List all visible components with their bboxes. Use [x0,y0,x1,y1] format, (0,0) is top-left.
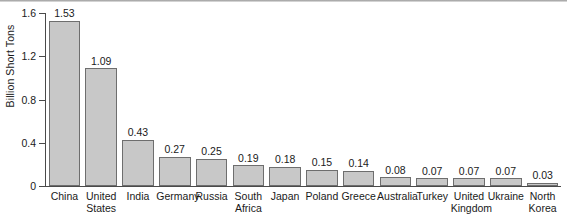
category-label-line: Korea [524,202,561,214]
category-label-line: United [83,190,120,202]
x-axis-category-label: Greece [340,190,377,202]
bar-column[interactable]: 0.08 [380,13,412,186]
bar-column[interactable]: 0.25 [196,13,228,186]
bar-value-label: 0.14 [348,158,368,169]
bar[interactable] [306,170,338,186]
y-axis-tick-label: 1.2 [0,51,36,62]
bar-chart-figure: Billion Short Tons 00.40.81.21.6 1.531.0… [0,0,567,224]
x-axis-category-label: UnitedKingdom [451,190,488,214]
y-axis-tick-mark [39,143,46,144]
y-axis-tick-mark [39,100,46,101]
x-axis-category-label: UnitedStates [83,190,120,214]
bar-value-label: 0.07 [422,166,442,177]
category-label-line: United [451,190,488,202]
bar-value-label: 0.08 [385,165,405,176]
category-label-line: North [524,190,561,202]
bar[interactable] [269,167,301,186]
bar[interactable] [453,178,485,186]
bar[interactable] [490,178,522,186]
bar-column[interactable]: 1.09 [85,13,117,186]
bar-value-label: 0.43 [128,127,148,138]
category-label-line: States [83,202,120,214]
bar-column[interactable]: 0.07 [490,13,522,186]
category-label-line: Turkey [414,190,451,202]
bar-value-label: 0.25 [201,146,221,157]
bar[interactable] [416,178,448,186]
category-label-line: Russia [193,190,230,202]
bar-column[interactable]: 0.19 [233,13,265,186]
bar[interactable] [343,171,375,186]
y-axis-tick-mark [39,56,46,57]
bar-column[interactable]: 0.43 [122,13,154,186]
bar[interactable] [196,159,228,186]
bar-column[interactable]: 0.15 [306,13,338,186]
bar-value-label: 0.07 [459,166,479,177]
bar-column[interactable]: 0.14 [343,13,375,186]
x-axis-category-label: Germany [156,190,193,202]
category-label-line: Poland [304,190,341,202]
category-label-line: Japan [267,190,304,202]
y-axis-tick-label: 0.8 [0,95,36,106]
category-label-line: Germany [156,190,193,202]
x-axis-category-label: NorthKorea [524,190,561,214]
y-axis-tick-label: 1.6 [0,8,36,19]
category-label-line: South [230,190,267,202]
x-axis-category-label: Poland [304,190,341,202]
y-axis-tick-label: 0 [0,181,36,192]
category-label-line: China [46,190,83,202]
x-axis-category-label: SouthAfrica [230,190,267,214]
bar-column[interactable]: 1.53 [49,13,81,186]
y-axis-tick-label: 0.4 [0,138,36,149]
category-label-line: Africa [230,202,267,214]
bar-value-label: 0.07 [496,166,516,177]
bar-column[interactable]: 0.03 [527,13,559,186]
bar[interactable] [527,183,559,186]
bar-column[interactable]: 0.07 [416,13,448,186]
bar[interactable] [159,157,191,186]
category-label-line: India [120,190,157,202]
x-axis-category-label: India [120,190,157,202]
bar-value-label: 0.27 [165,144,185,155]
bar-value-label: 1.09 [91,56,111,67]
x-axis-line [45,186,561,187]
bar-column[interactable]: 0.07 [453,13,485,186]
bar-value-label: 0.03 [532,170,552,181]
bar-value-label: 0.15 [312,157,332,168]
bar[interactable] [49,21,81,186]
category-label-line: Ukraine [487,190,524,202]
y-axis-tick-mark [39,13,46,14]
bar-value-label: 0.19 [238,153,258,164]
bar-column[interactable]: 0.27 [159,13,191,186]
x-axis-category-label: Russia [193,190,230,202]
x-axis-category-label: Ukraine [487,190,524,202]
category-label-line: Greece [340,190,377,202]
x-axis-category-label: China [46,190,83,202]
x-axis-category-label: Japan [267,190,304,202]
bar-value-label: 0.18 [275,154,295,165]
bar-column[interactable]: 0.18 [269,13,301,186]
y-axis-tick-mark [39,186,46,187]
bar[interactable] [233,165,265,186]
bar[interactable] [380,177,412,186]
y-axis-title: Billion Short Tons [4,1,16,131]
top-rule-divider [0,0,567,2]
category-label-line: Kingdom [451,202,488,214]
bar[interactable] [85,68,117,186]
plot-area: 1.531.090.430.270.250.190.180.150.140.08… [46,13,561,186]
x-axis-category-label: Turkey [414,190,451,202]
bar[interactable] [122,140,154,186]
category-label-line: Australia [377,190,414,202]
x-axis-category-label: Australia [377,190,414,202]
bar-value-label: 1.53 [54,8,74,19]
